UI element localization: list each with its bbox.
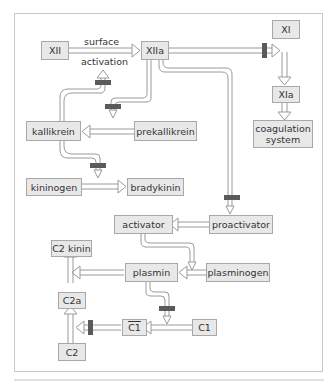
- node-xi: XI: [272, 20, 300, 39]
- node-c2-kinin: C2 kinin: [51, 240, 92, 257]
- node-c2a: C2a: [58, 292, 86, 309]
- label-surface: surface: [84, 36, 119, 47]
- node-plasmin: plasmin: [125, 263, 178, 282]
- node-proactivator: proactivator: [209, 215, 273, 234]
- node-xia: XIa: [272, 86, 300, 103]
- node-c2: C2: [58, 343, 86, 361]
- node-xii: XII: [41, 41, 69, 60]
- node-c1-activated: C1: [122, 319, 147, 336]
- node-plasminogen: plasminogen: [206, 263, 270, 282]
- node-bradykinin: bradykinin: [127, 178, 184, 196]
- label-activation: activation: [81, 56, 128, 67]
- node-coagulation-system: coagulation system: [253, 120, 313, 148]
- node-xiia: XIIa: [141, 41, 169, 60]
- node-prekallikrein: prekallikrein: [134, 121, 197, 141]
- node-activator: activator: [114, 215, 173, 234]
- node-c1: C1: [192, 319, 217, 336]
- node-kininogen: kininogen: [26, 178, 82, 196]
- node-kallikrein: kallikrein: [26, 121, 81, 141]
